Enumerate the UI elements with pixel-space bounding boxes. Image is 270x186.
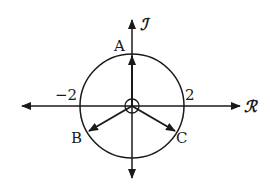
phasor-c <box>132 106 175 131</box>
imag-axis-label: ℐ <box>140 15 151 34</box>
label-c: C <box>176 129 187 147</box>
tick-pos-2: 2 <box>185 86 195 104</box>
diagram-canvas: A B C −2 2 ℐ ℛ <box>0 0 270 186</box>
real-axis-label: ℛ <box>244 97 259 116</box>
phasor-diagram: A B C −2 2 ℐ ℛ <box>0 0 270 186</box>
phasor-b <box>89 106 132 131</box>
label-a: A <box>113 37 125 55</box>
tick-neg-2: −2 <box>55 86 77 104</box>
label-b: B <box>71 129 82 147</box>
